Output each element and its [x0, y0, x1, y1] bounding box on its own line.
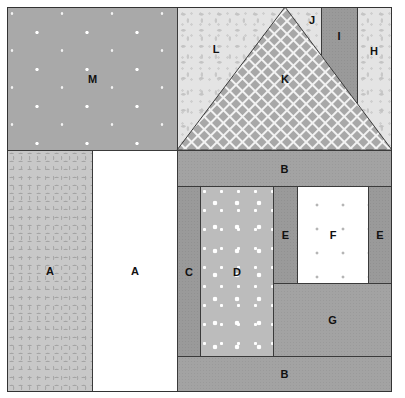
quilt-block: M L J I H K A A B C D E F [7, 7, 392, 392]
block-outline [7, 7, 392, 392]
